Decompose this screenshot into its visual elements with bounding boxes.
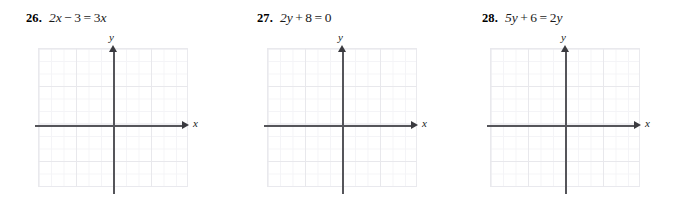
y-axis-label: y (109, 31, 114, 43)
equation-lhs-coef-26: 2 (49, 10, 56, 25)
coordinate-grid-26[interactable]: x y (38, 48, 188, 187)
x-axis-arrow-icon (182, 121, 189, 129)
problem-number-28: 28. (482, 11, 498, 25)
equation-rhs-var-28: y (556, 10, 562, 25)
y-axis-line (565, 49, 567, 194)
equation-lhs-const-28: 6 (530, 10, 537, 25)
x-axis-arrow-icon (634, 121, 641, 129)
x-axis-arrow-icon (411, 121, 418, 129)
x-axis-line (35, 125, 183, 127)
exercise-row: 26.2x−3=3x x y 27.2y+8=0 x y (0, 0, 681, 208)
y-axis-line (113, 49, 115, 194)
equation-lhs-coef-28: 5 (505, 10, 512, 25)
exercise-item-28: 28.5y+6=2y x y (454, 0, 681, 208)
equation-rhs-var-27: 0 (325, 10, 332, 25)
equation-lhs-var-26: x (56, 10, 62, 25)
problem-number-27: 27. (257, 11, 273, 25)
x-axis-line (264, 125, 412, 127)
x-axis-label: x (193, 117, 198, 129)
y-axis-arrow-icon (109, 45, 117, 52)
coordinate-grid-27[interactable]: x y (267, 48, 417, 187)
y-axis-arrow-icon (338, 45, 346, 52)
equation-equals-26: = (84, 10, 92, 25)
equation-lhs-var-28: y (512, 10, 518, 25)
x-axis-line (487, 125, 635, 127)
y-axis-line (342, 49, 344, 194)
equation-lhs-const-26: 3 (74, 10, 81, 25)
problem-statement-26: 26.2x−3=3x (26, 10, 106, 26)
problem-number-26: 26. (26, 11, 42, 25)
y-axis-arrow-icon (561, 45, 569, 52)
equation-lhs-op-28: + (520, 10, 528, 25)
exercise-item-27: 27.2y+8=0 x y (227, 0, 454, 208)
exercise-item-26: 26.2x−3=3x x y (0, 0, 227, 208)
equation-lhs-op-27: + (295, 10, 303, 25)
equation-equals-27: = (315, 10, 323, 25)
equation-lhs-coef-27: 2 (280, 10, 287, 25)
y-axis-label: y (338, 31, 343, 43)
problem-statement-28: 28.5y+6=2y (482, 10, 562, 26)
equation-lhs-var-27: y (287, 10, 293, 25)
x-axis-label: x (422, 117, 427, 129)
problem-equation-28: 5y+6=2y (505, 10, 563, 25)
y-axis-label: y (561, 31, 566, 43)
x-axis-label: x (645, 117, 650, 129)
coordinate-grid-28[interactable]: x y (490, 48, 640, 187)
problem-equation-27: 2y+8=0 (280, 10, 332, 25)
equation-lhs-const-27: 8 (305, 10, 312, 25)
problem-statement-27: 27.2y+8=0 (257, 10, 331, 26)
equation-equals-28: = (540, 10, 548, 25)
equation-rhs-var-26: x (100, 10, 106, 25)
problem-equation-26: 2x−3=3x (49, 10, 107, 25)
equation-lhs-op-26: − (64, 10, 72, 25)
